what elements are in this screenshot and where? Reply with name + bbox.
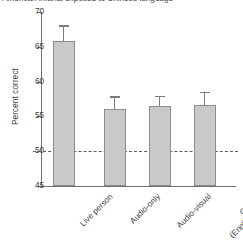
bar-group — [104, 109, 126, 186]
error-bar — [204, 93, 205, 106]
error-bar-cap — [200, 92, 210, 93]
error-bar-cap — [155, 96, 165, 97]
bar-group — [194, 105, 216, 186]
error-bar — [63, 27, 64, 42]
error-bar-cap — [110, 96, 120, 97]
bars-layer — [0, 0, 243, 248]
error-bar — [114, 98, 115, 109]
bar-group — [149, 106, 171, 186]
bar — [53, 41, 75, 186]
error-bar — [159, 97, 160, 106]
bar — [104, 109, 126, 186]
bar-chart: American infants exposed to Chinese lang… — [0, 0, 243, 248]
error-bar-cap — [59, 25, 69, 26]
bar — [149, 106, 171, 186]
bar-group — [53, 41, 75, 186]
bar — [194, 105, 216, 186]
